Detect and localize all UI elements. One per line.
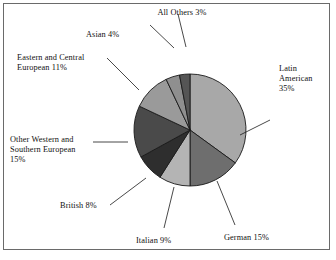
leader-line-eastern [107, 58, 139, 90]
leader-line-italian [164, 187, 174, 228]
pie-chart-figure: All Others 3% Asian 4% Eastern and Centr… [0, 0, 336, 260]
label-latin-american-line1: Latin [279, 64, 331, 74]
label-eastern-european-line1: Eastern and Central [17, 53, 109, 63]
label-all-others: All Others 3% [138, 8, 226, 18]
label-other-western-line1: Other Western and [10, 135, 102, 145]
label-italian: Italian 9% [136, 236, 192, 246]
label-british: British 8% [60, 201, 116, 211]
leader-line-german [217, 181, 235, 225]
leader-line-all-others [178, 14, 186, 47]
label-latin-american-line2: American [279, 74, 331, 84]
label-eastern-european-line2: European 11% [17, 63, 109, 73]
label-other-western-line3: 15% [10, 155, 102, 165]
label-latin-american-line3: 35% [279, 84, 331, 94]
label-german: German 15% [224, 233, 290, 243]
pie-slices [134, 74, 246, 186]
pie-chart-plot [0, 0, 336, 260]
label-asian: Asian 4% [86, 30, 148, 40]
leader-line-asian [150, 25, 174, 48]
label-other-western-line2: Southern European [10, 145, 102, 155]
